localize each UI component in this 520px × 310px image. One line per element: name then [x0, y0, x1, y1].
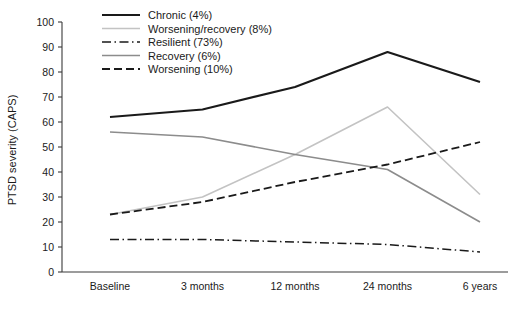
legend-label-0: Chronic (4%)	[148, 9, 212, 21]
chart-legend: Chronic (4%)Worsening/recovery (8%)Resil…	[102, 9, 272, 75]
x-tick-label: 24 months	[363, 280, 412, 292]
y-tick-label: 20	[42, 216, 54, 228]
series-line-1	[110, 107, 480, 215]
y-tick-label: 10	[42, 241, 54, 253]
legend-label-4: Worsening (10%)	[148, 63, 233, 75]
x-tick-label: 12 months	[270, 280, 319, 292]
y-axis-title: PTSD severity (CAPS)	[6, 95, 18, 206]
chart-canvas: 0102030405060708090100 Baseline3 months1…	[0, 0, 520, 310]
y-axis: 0102030405060708090100	[36, 16, 62, 278]
legend-label-2: Resilient (73%)	[148, 36, 223, 48]
series-line-3	[110, 132, 480, 222]
y-tick-label: 40	[42, 166, 54, 178]
y-tick-label: 80	[42, 66, 54, 78]
y-tick-label: 30	[42, 191, 54, 203]
y-tick-label: 0	[48, 266, 54, 278]
x-tick-label: Baseline	[90, 280, 130, 292]
legend-label-3: Recovery (6%)	[148, 50, 221, 62]
x-axis: Baseline3 months12 months24 months6 year…	[62, 272, 508, 292]
x-tick-label: 3 months	[181, 280, 224, 292]
x-tick-label: 6 years	[463, 280, 497, 292]
y-tick-label: 90	[42, 41, 54, 53]
y-tick-label: 60	[42, 116, 54, 128]
legend-label-1: Worsening/recovery (8%)	[148, 23, 272, 35]
y-tick-label: 70	[42, 91, 54, 103]
series-line-0	[110, 52, 480, 117]
series-lines	[110, 52, 480, 252]
y-tick-label: 100	[36, 16, 54, 28]
y-tick-label: 50	[42, 141, 54, 153]
series-line-2	[110, 240, 480, 253]
ptsd-severity-line-chart: 0102030405060708090100 Baseline3 months1…	[0, 0, 520, 310]
